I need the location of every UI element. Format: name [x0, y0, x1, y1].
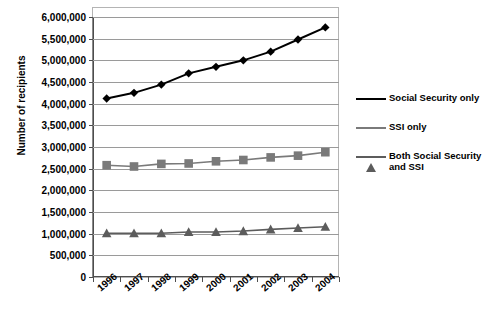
y-tick-label: 5,000,000	[0, 55, 86, 66]
data-point-marker	[184, 69, 192, 77]
data-point-marker	[157, 160, 166, 169]
legend-key-square-icon	[356, 122, 386, 134]
series-layer	[93, 17, 339, 277]
y-tick-label: 1,500,000	[0, 207, 86, 218]
data-point-marker	[212, 157, 221, 166]
data-point-marker	[266, 153, 275, 162]
chart-container: Number of recipients 0500,0001,000,0001,…	[0, 0, 497, 310]
y-tick-label: 4,000,000	[0, 98, 86, 109]
x-tick-mark	[148, 277, 149, 282]
y-tick-label: 6,000,000	[0, 12, 86, 23]
data-point-marker	[102, 161, 111, 170]
x-tick-mark	[120, 277, 121, 282]
y-tick-label: 3,500,000	[0, 120, 86, 131]
data-point-marker	[294, 151, 303, 160]
data-point-marker	[130, 162, 139, 171]
data-point-marker	[239, 156, 248, 165]
legend-label: SSI only	[389, 121, 426, 132]
y-tick-label: 1,000,000	[0, 228, 86, 239]
x-tick-mark	[284, 277, 285, 282]
data-point-marker	[321, 148, 330, 157]
data-point-marker	[157, 80, 165, 88]
data-point-marker	[130, 89, 138, 97]
y-tick-label: 500,000	[0, 250, 86, 261]
data-point-marker	[184, 159, 193, 168]
y-tick-label: 5,500,000	[0, 33, 86, 44]
legend-key-diamond-icon	[356, 93, 386, 105]
x-tick-mark	[230, 277, 231, 282]
data-point-marker	[266, 47, 274, 55]
y-tick-label: 3,000,000	[0, 142, 86, 153]
data-point-marker	[321, 23, 329, 31]
data-point-marker	[102, 94, 110, 102]
x-tick-mark	[93, 277, 94, 282]
chart-legend: Social Security only SSI only Both Socia…	[356, 92, 496, 188]
legend-item-both-social-security-and-ssi: Both Social Security and SSI	[356, 150, 496, 172]
legend-label: Both Social Security and SSI	[389, 150, 496, 172]
legend-item-ssi-only: SSI only	[356, 121, 496, 134]
y-tick-label: 2,500,000	[0, 163, 86, 174]
y-tick-label: 0	[0, 272, 86, 283]
legend-key-triangle-icon	[356, 151, 386, 163]
x-tick-mark	[312, 277, 313, 282]
legend-item-social-security-only: Social Security only	[356, 92, 496, 105]
data-point-marker	[294, 35, 302, 43]
data-point-marker	[212, 63, 220, 71]
y-tick-label: 2,000,000	[0, 185, 86, 196]
x-tick-mark	[202, 277, 203, 282]
x-tick-mark	[175, 277, 176, 282]
plot-area: 0500,0001,000,0001,500,0002,000,0002,500…	[92, 17, 338, 277]
data-point-marker	[239, 56, 247, 64]
x-tick-mark	[257, 277, 258, 282]
x-tick-mark	[339, 277, 340, 282]
legend-label: Social Security only	[389, 92, 479, 103]
y-tick-label: 4,500,000	[0, 77, 86, 88]
